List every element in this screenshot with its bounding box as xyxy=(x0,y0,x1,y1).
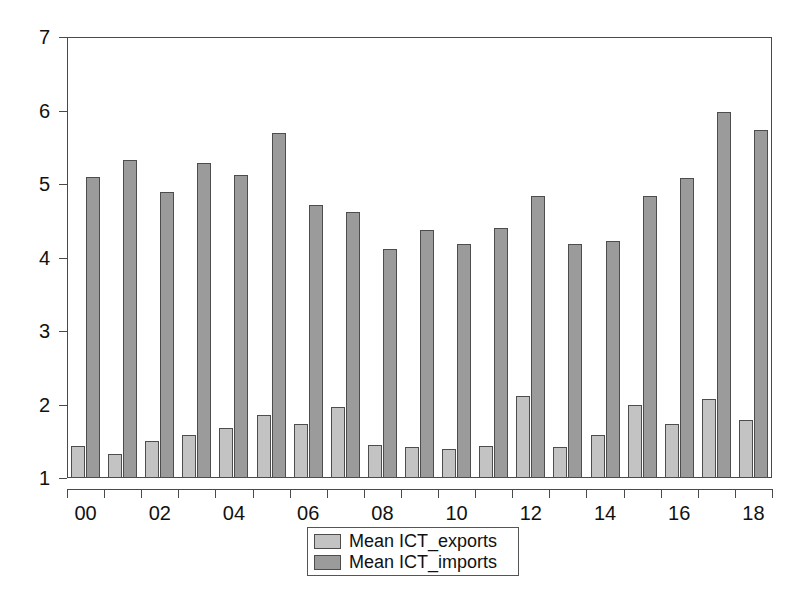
bar-imports-00 xyxy=(86,177,100,478)
bar-imports-10 xyxy=(457,244,471,478)
bar-imports-01 xyxy=(123,160,137,478)
bar-imports-09 xyxy=(420,230,434,478)
bar-imports-14 xyxy=(606,241,620,478)
bar-chart: 1234567 00020406081012141618 Mean ICT_ex… xyxy=(0,0,803,609)
bar-imports-02 xyxy=(160,192,174,478)
legend-item: Mean ICT_imports xyxy=(314,552,512,573)
legend-swatch-exports xyxy=(314,534,341,549)
bar-imports-07 xyxy=(346,212,360,478)
bar-exports-12 xyxy=(516,396,530,478)
bar-exports-05 xyxy=(257,415,271,478)
bar-imports-18 xyxy=(754,130,768,478)
bar-exports-17 xyxy=(702,399,716,478)
bar-exports-06 xyxy=(294,424,308,478)
legend-label-exports: Mean ICT_exports xyxy=(349,532,497,551)
bar-imports-16 xyxy=(680,178,694,478)
bar-exports-15 xyxy=(628,405,642,478)
bar-exports-01 xyxy=(108,454,122,478)
bar-exports-11 xyxy=(479,446,493,478)
bar-imports-12 xyxy=(531,196,545,478)
bar-imports-17 xyxy=(717,112,731,478)
bar-exports-14 xyxy=(591,435,605,478)
bar-imports-11 xyxy=(494,228,508,478)
bar-exports-02 xyxy=(145,441,159,478)
bar-exports-18 xyxy=(739,420,753,478)
legend-item: Mean ICT_exports xyxy=(314,531,512,552)
bar-exports-10 xyxy=(442,449,456,478)
bar-exports-07 xyxy=(331,407,345,478)
legend-label-imports: Mean ICT_imports xyxy=(349,553,497,572)
bar-imports-04 xyxy=(234,175,248,478)
bar-exports-16 xyxy=(665,424,679,478)
bar-exports-03 xyxy=(182,435,196,478)
bar-imports-06 xyxy=(309,205,323,478)
legend-swatch-imports xyxy=(314,555,341,570)
bars-layer xyxy=(0,0,803,609)
bar-exports-08 xyxy=(368,445,382,478)
bar-exports-00 xyxy=(71,446,85,478)
bar-imports-05 xyxy=(272,133,286,478)
bar-imports-08 xyxy=(383,249,397,478)
bar-exports-13 xyxy=(553,447,567,478)
chart-legend: Mean ICT_exports Mean ICT_imports xyxy=(307,527,519,576)
bar-imports-13 xyxy=(568,244,582,478)
bar-exports-09 xyxy=(405,447,419,478)
bar-imports-03 xyxy=(197,163,211,478)
bar-exports-04 xyxy=(219,428,233,478)
bar-imports-15 xyxy=(643,196,657,478)
